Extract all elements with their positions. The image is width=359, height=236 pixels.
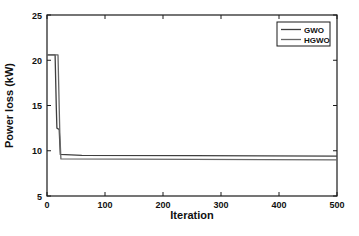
- y-tick-label: 25: [32, 11, 42, 21]
- y-tick-label: 15: [32, 101, 42, 111]
- convergence-chart: 0100200300400500510152025IterationPower …: [0, 0, 359, 236]
- x-tick-label: 300: [213, 200, 228, 210]
- legend-label: HGWO: [304, 36, 330, 45]
- y-tick-label: 5: [37, 192, 42, 202]
- y-axis-label: Power loss (kW): [3, 63, 15, 148]
- series-line-hgwo: [47, 55, 337, 160]
- x-axis-label: Iteration: [170, 209, 214, 221]
- y-tick-label: 20: [32, 56, 42, 66]
- x-tick-label: 0: [44, 200, 49, 210]
- series-line-gwo: [47, 55, 337, 156]
- power-loss-convergence-figure: 0100200300400500510152025IterationPower …: [0, 0, 359, 236]
- legend-label: GWO: [304, 26, 324, 35]
- legend: GWOHGWO: [277, 22, 330, 46]
- x-tick-label: 100: [97, 200, 112, 210]
- x-tick-label: 200: [155, 200, 170, 210]
- y-tick-label: 10: [32, 146, 42, 156]
- x-tick-label: 500: [329, 200, 344, 210]
- x-tick-label: 400: [271, 200, 286, 210]
